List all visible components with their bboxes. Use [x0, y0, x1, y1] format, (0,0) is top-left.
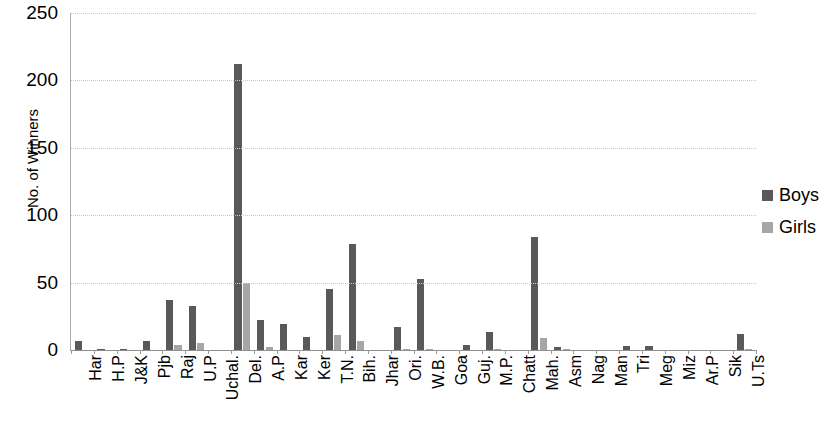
- bar-girls: [334, 335, 341, 350]
- x-tick-label: Kar: [293, 355, 310, 423]
- bar-group: [688, 13, 711, 350]
- legend-item[interactable]: Girls: [762, 218, 832, 236]
- gridline: [71, 215, 756, 216]
- x-tick: [733, 350, 734, 354]
- bar-boys: [326, 289, 333, 350]
- bar-group: [436, 13, 459, 350]
- x-tick: [345, 350, 346, 354]
- x-tick: [185, 350, 186, 354]
- y-tick-label: 50: [37, 273, 58, 292]
- bar-group: [710, 13, 733, 350]
- x-tick-label: Goa: [453, 355, 470, 423]
- x-tick-label: Sik: [727, 355, 744, 423]
- bar-group: [642, 13, 665, 350]
- bar-boys: [394, 327, 401, 350]
- x-tick-label: W.B.: [430, 355, 447, 423]
- bar-girls: [357, 341, 364, 350]
- plot-inner: [71, 13, 756, 350]
- bar-group: [505, 13, 528, 350]
- legend-label: Boys: [779, 186, 819, 204]
- bar-boys: [531, 237, 538, 350]
- bar-group: [94, 13, 117, 350]
- bar-girls: [243, 283, 250, 350]
- legend-item[interactable]: Boys: [762, 186, 832, 204]
- bar-group: [368, 13, 391, 350]
- chart-legend: BoysGirls: [762, 186, 832, 250]
- x-tick-label: Ker: [316, 355, 333, 423]
- x-tick-label: M.P.: [498, 355, 515, 423]
- bar-girls: [540, 338, 547, 350]
- x-tick: [642, 350, 643, 354]
- bar-boys: [120, 349, 127, 351]
- gridline: [71, 80, 756, 81]
- legend-label: Girls: [779, 218, 816, 236]
- x-tick: [162, 350, 163, 354]
- bar-girls: [494, 349, 501, 351]
- x-tick: [459, 350, 460, 354]
- y-tick-label: 100: [26, 205, 58, 224]
- x-tick: [710, 350, 711, 354]
- x-tick: [551, 350, 552, 354]
- bar-boys: [280, 324, 287, 350]
- bar-group: [459, 13, 482, 350]
- y-tick-label: 0: [47, 340, 58, 359]
- bar-boys: [303, 337, 310, 350]
- x-tick: [528, 350, 529, 354]
- bar-boys: [166, 300, 173, 350]
- x-tick: [573, 350, 574, 354]
- x-tick-label: H.P: [110, 355, 127, 423]
- x-tick-label: A.P: [270, 355, 287, 423]
- bar-boys: [554, 347, 561, 350]
- bar-girls: [174, 345, 181, 350]
- bar-group: [185, 13, 208, 350]
- x-tick: [391, 350, 392, 354]
- bar-group: [391, 13, 414, 350]
- x-tick: [505, 350, 506, 354]
- bar-group: [299, 13, 322, 350]
- x-tick-label: Pjb: [156, 355, 173, 423]
- x-tick: [436, 350, 437, 354]
- x-tick-label: J&K: [133, 355, 150, 423]
- bar-group: [665, 13, 688, 350]
- x-tick-label: Del.: [247, 355, 264, 423]
- y-axis-tick-labels: 050100150200250: [0, 0, 66, 423]
- bar-boys: [645, 346, 652, 350]
- bar-group: [140, 13, 163, 350]
- bar-boys: [463, 345, 470, 350]
- y-tick-label: 150: [26, 138, 58, 157]
- x-tick: [299, 350, 300, 354]
- x-tick: [368, 350, 369, 354]
- bar-boys: [257, 320, 264, 350]
- bar-group: [322, 13, 345, 350]
- x-tick-label: Miz: [681, 355, 698, 423]
- x-tick: [94, 350, 95, 354]
- bar-chart: No. of Winners 050100150200250 HarH.PJ&K…: [0, 0, 832, 423]
- x-axis-tick-labels: HarH.PJ&KPjbRajU.PUchal.Del.A.PKarKerT.N…: [70, 355, 755, 423]
- x-tick-label: Jhar: [384, 355, 401, 423]
- gridline: [71, 148, 756, 149]
- x-tick-label: Chatt: [521, 355, 538, 423]
- x-tick: [619, 350, 620, 354]
- gridline: [71, 283, 756, 284]
- bar-group: [619, 13, 642, 350]
- bar-group: [482, 13, 505, 350]
- x-tick: [208, 350, 209, 354]
- x-tick-label: Uchal.: [224, 355, 241, 423]
- bar-group: [596, 13, 619, 350]
- x-tick: [482, 350, 483, 354]
- x-tick: [254, 350, 255, 354]
- bar-group: [208, 13, 231, 350]
- bar-group: [551, 13, 574, 350]
- x-tick: [665, 350, 666, 354]
- legend-swatch-icon: [762, 222, 773, 233]
- bar-boys: [486, 332, 493, 350]
- bar-boys: [623, 346, 630, 350]
- x-tick-label: Asm: [567, 355, 584, 423]
- bar-boys: [75, 341, 82, 350]
- bar-girls: [197, 343, 204, 350]
- bar-group: [573, 13, 596, 350]
- y-tick-label: 200: [26, 70, 58, 89]
- x-tick-label: Tri: [635, 355, 652, 423]
- x-tick-label: Guj.: [476, 355, 493, 423]
- bar-boys: [189, 306, 196, 350]
